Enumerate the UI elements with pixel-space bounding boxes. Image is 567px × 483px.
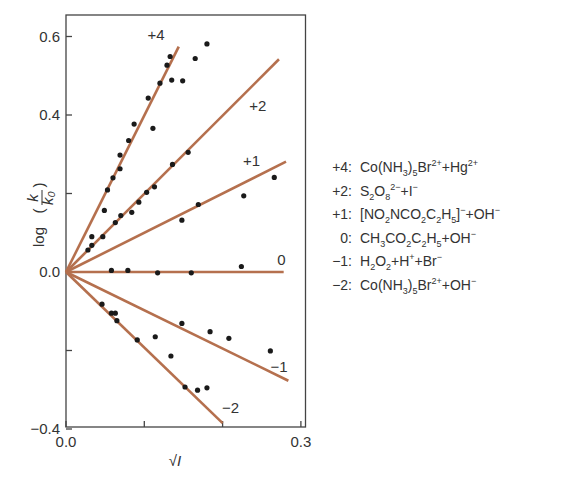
data-point <box>100 234 105 239</box>
data-point <box>193 56 198 61</box>
data-point <box>89 234 94 239</box>
legend-reaction: Co(NH3)5Br2++OH− <box>360 274 476 298</box>
data-point <box>117 152 122 157</box>
legend-reaction: S2O82−+I− <box>360 180 418 204</box>
data-point <box>164 63 169 68</box>
data-point <box>182 384 187 389</box>
legend-row: 0:CH3CO2C2H5+OH− <box>322 227 500 251</box>
data-point <box>169 77 174 82</box>
legend-key: −1: <box>322 250 352 274</box>
data-point <box>226 336 231 341</box>
data-point <box>85 247 90 252</box>
data-point <box>102 208 107 213</box>
legend-reaction: H2O2+H++Br− <box>360 250 442 274</box>
data-point <box>113 220 118 225</box>
series-label: +1 <box>243 152 260 169</box>
legend-key: +4: <box>322 156 352 180</box>
x-tick-label: 0.3 <box>290 433 311 450</box>
y-axis-label: log ( k k₀ ) <box>24 183 56 248</box>
data-point <box>153 334 158 339</box>
fit-line-plus1 <box>66 162 286 272</box>
data-point <box>146 96 151 101</box>
series-label: 0 <box>277 251 285 268</box>
y-axis-label-paren-close: ) <box>30 183 47 188</box>
data-point <box>144 190 149 195</box>
x-axis: 0.00.3 <box>56 421 312 450</box>
legend-key: +1: <box>322 203 352 227</box>
data-point <box>179 218 184 223</box>
legend-key: +2: <box>322 180 352 204</box>
y-axis-label-paren-open: ( <box>30 209 47 214</box>
data-point <box>195 388 200 393</box>
y-axis-label-log: log <box>30 227 47 247</box>
y-tick-label: 0.4 <box>39 106 60 123</box>
data-point <box>132 121 137 126</box>
legend-reaction: [NO2NCO2C2H5]−+OH− <box>360 203 500 227</box>
data-point <box>189 270 194 275</box>
data-point <box>241 193 246 198</box>
legend-reaction: CH3CO2C2H5+OH− <box>360 227 476 251</box>
data-point <box>239 264 244 269</box>
legend-row: +1:[NO2NCO2C2H5]−+OH− <box>322 203 500 227</box>
data-point <box>126 138 131 143</box>
data-point <box>113 311 118 316</box>
data-point <box>114 318 119 323</box>
data-point <box>168 353 173 358</box>
data-point <box>118 213 123 218</box>
data-point <box>89 243 94 248</box>
data-point <box>204 385 209 390</box>
data-point <box>150 126 155 131</box>
legend-row: −1:H2O2+H++Br− <box>322 250 500 274</box>
data-point <box>207 329 212 334</box>
series-label: +2 <box>249 97 266 114</box>
fit-line-minus2 <box>66 272 223 423</box>
legend-key: −2: <box>322 274 352 298</box>
data-point <box>109 268 114 273</box>
data-point <box>204 41 209 46</box>
y-tick-label: 0.6 <box>39 28 60 45</box>
data-point <box>196 202 201 207</box>
data-point <box>179 321 184 326</box>
series-label: −2 <box>222 399 239 416</box>
fit-line-minus1 <box>66 272 288 381</box>
y-tick-label: 0.0 <box>39 263 60 280</box>
data-point <box>170 162 175 167</box>
data-point <box>135 337 140 342</box>
series-label: +4 <box>147 26 164 43</box>
data-point <box>157 81 162 86</box>
data-point <box>129 210 134 215</box>
legend-row: −2:Co(NH3)5Br2++OH− <box>322 274 500 298</box>
data-point <box>110 175 115 180</box>
data-point <box>180 78 185 83</box>
data-point <box>99 302 104 307</box>
data-points <box>85 41 277 392</box>
x-tick-label: 0.0 <box>56 433 77 450</box>
series-label: −1 <box>270 358 287 375</box>
legend: +4:Co(NH3)5Br2++Hg2++2:S2O82−+I−+1:[NO2N… <box>322 156 500 297</box>
data-point <box>155 270 160 275</box>
data-point <box>117 166 122 171</box>
legend-row: +4:Co(NH3)5Br2++Hg2+ <box>322 156 500 180</box>
data-point <box>168 54 173 59</box>
data-point <box>272 175 277 180</box>
data-point <box>268 348 273 353</box>
data-point <box>186 150 191 155</box>
x-axis-label: √I <box>169 452 181 469</box>
data-point <box>152 184 157 189</box>
fit-line-plus4 <box>66 47 179 272</box>
legend-row: +2:S2O82−+I− <box>322 180 500 204</box>
data-point <box>136 200 141 205</box>
y-axis-label-denominator: k₀ <box>39 191 56 205</box>
data-point <box>125 268 130 273</box>
legend-key: 0: <box>322 227 352 251</box>
legend-reaction: Co(NH3)5Br2++Hg2+ <box>360 156 478 180</box>
data-point <box>105 187 110 192</box>
